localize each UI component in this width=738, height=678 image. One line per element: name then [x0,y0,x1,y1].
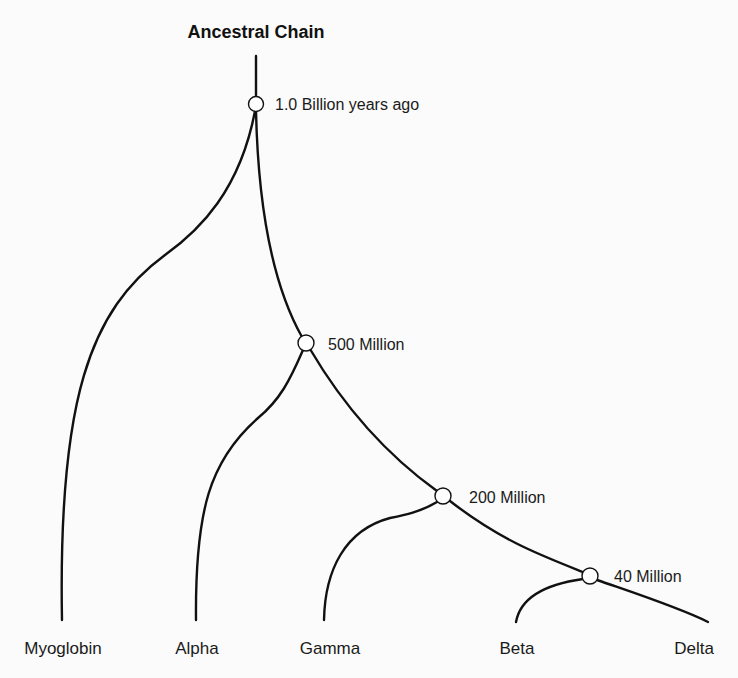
node-label-40-million: 40 Million [614,568,682,585]
leaf-label-delta: Delta [674,639,714,658]
node-label-500-million: 500 Million [328,336,404,353]
edge-n4-delta [597,580,708,622]
leaf-label-beta: Beta [500,639,536,658]
edge-n4-beta [516,579,583,622]
edge-n1-n2 [256,111,302,337]
node-1-billion [249,97,264,112]
leaf-label-myoglobin: Myoglobin [24,639,102,658]
leaf-label-alpha: Alpha [175,639,219,658]
edge-n1-myoglobin [62,111,255,620]
node-200-million [435,488,451,504]
leaf-label-gamma: Gamma [300,639,361,658]
edge-n3-n4 [450,501,583,572]
node-40-million [582,568,598,584]
edge-n2-n3 [310,349,437,491]
edge-n3-gamma [324,502,437,620]
node-label-200-million: 200 Million [469,489,545,506]
diagram-title: Ancestral Chain [187,22,324,42]
tree-diagram: Ancestral Chain 1.0 Billion years ago 50… [0,0,738,678]
node-label-1-billion: 1.0 Billion years ago [275,96,419,113]
edge-n2-alpha [196,350,303,620]
node-500-million [298,335,314,351]
